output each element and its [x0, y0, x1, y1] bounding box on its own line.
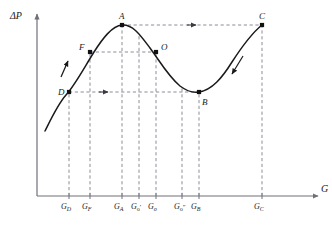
point-marker-B [197, 90, 201, 94]
y-axis-label: ΔP [10, 11, 22, 21]
x-tick-label-G_o: Go [148, 203, 157, 211]
point-marker-O [154, 50, 158, 54]
point-label-F: F [79, 43, 85, 52]
x-tick-label-G_o': Go′ [131, 203, 141, 211]
x-tick-label-G_D: GD [61, 203, 71, 211]
point-marker-D [67, 90, 71, 94]
point-marker-F [88, 50, 92, 54]
x-tick-label-G_F: GF [82, 203, 91, 211]
x-tick-label-G_B: GB [191, 203, 200, 211]
x-tick-label-G_C: GC [254, 203, 264, 211]
isotherm-curve [45, 25, 262, 131]
point-label-B: B [202, 98, 208, 107]
point-label-C: C [259, 12, 265, 21]
ascending-branch-arrow [61, 61, 68, 77]
tangent-direction-arrows [61, 56, 243, 77]
horizontal-connectors [69, 25, 262, 92]
plot-canvas [0, 0, 332, 231]
point-marker-C [260, 23, 264, 27]
x-tick-label-G_o'': Go″ [174, 203, 186, 211]
x-tick-label-G_A: GA [114, 203, 123, 211]
point-label-O: O [161, 43, 168, 52]
point-marker-A [120, 23, 124, 27]
point-label-A: A [119, 12, 125, 21]
figure-container: ΔP G GDGFGAGo′GoGo″GBGC ACFODB [0, 0, 332, 231]
x-axis-label: G [321, 184, 328, 194]
point-label-D: D [58, 88, 65, 97]
